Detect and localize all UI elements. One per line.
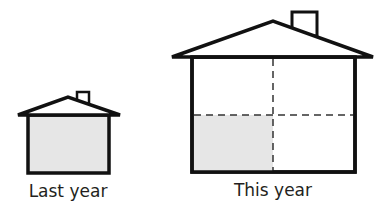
house-last-year-roof (18, 97, 120, 115)
house-this-year-roof (172, 21, 373, 57)
shaded-quarter (194, 115, 273, 171)
house-last-year-body (28, 115, 109, 173)
house-this-year: This year (172, 12, 373, 200)
house-last-year: Last year (18, 92, 120, 201)
label-last-year: Last year (29, 181, 108, 201)
label-this-year: This year (233, 180, 312, 200)
house-comparison-diagram: Last year This year (0, 0, 387, 215)
